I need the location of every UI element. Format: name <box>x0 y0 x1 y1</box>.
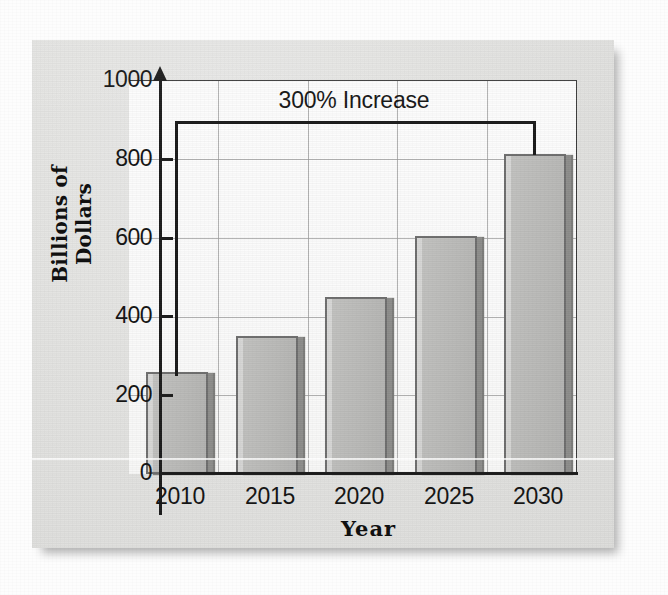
x-axis-line <box>159 472 578 475</box>
increase-bracket <box>175 121 536 376</box>
y-axis-title: Billions of Dollars <box>48 129 96 319</box>
plot-area: 300% Increase <box>129 80 577 474</box>
scanned-page: 300% Increase 1000 800 600 400 200 0 201… <box>0 0 668 595</box>
y-axis-arrow-icon <box>153 66 167 81</box>
y-axis-line <box>159 74 162 515</box>
x-tick-label-2030: 2030 <box>483 483 593 510</box>
y-tick-label-1000: 1000 <box>82 66 152 93</box>
increase-bracket-right-leg <box>533 121 536 155</box>
bar-2010[interactable] <box>146 372 208 474</box>
chart-figure-card: 300% Increase 1000 800 600 400 200 0 201… <box>32 40 614 548</box>
y-tick-400 <box>162 315 173 318</box>
y-tick-800 <box>162 158 173 161</box>
y-tick-200 <box>162 394 173 397</box>
y-tick-label-0: 0 <box>82 459 152 486</box>
y-tick-600 <box>162 237 173 240</box>
increase-annotation-label: 300% Increase <box>234 87 474 114</box>
y-tick-label-200: 200 <box>82 381 152 408</box>
x-axis-title: Year <box>159 516 578 541</box>
